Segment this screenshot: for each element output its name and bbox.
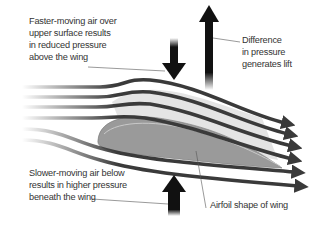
lift-label: Difference in pressure generates lift <box>242 34 292 70</box>
down-pressure-arrow-icon <box>162 38 186 80</box>
lift-arrow-icon <box>199 5 219 90</box>
leader-lift <box>213 38 240 42</box>
up-pressure-arrow-icon <box>162 175 186 216</box>
lower-surface-label: Slower-moving air below results in highe… <box>29 167 127 203</box>
leader-upper <box>88 67 165 71</box>
upper-surface-label: Faster-moving air over upper surface res… <box>29 15 117 63</box>
airfoil-label: Airfoil shape of wing <box>210 199 288 211</box>
